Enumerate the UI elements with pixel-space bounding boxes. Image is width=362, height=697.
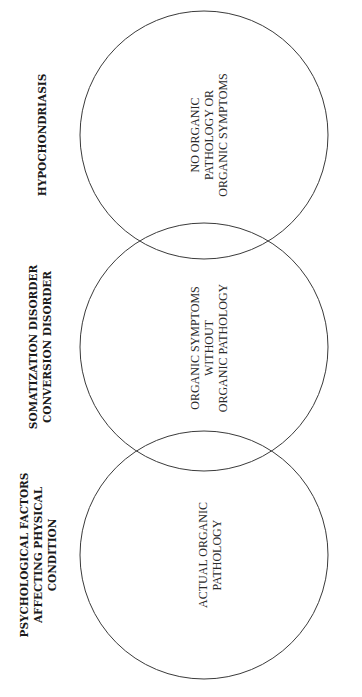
inner-line: ORGANIC SYMPTOMS — [188, 286, 202, 409]
inner-label-organic-symptoms-without-pathology: ORGANIC SYMPTOMS WITHOUT ORGANIC PATHOLO… — [188, 283, 230, 412]
inner-line: ACTUAL ORGANIC — [196, 502, 210, 608]
inner-line: ORGANIC SYMPTOMS — [216, 73, 230, 196]
venn-diagram: PSYCHOLOGICAL FACTORS AFFECTING PHYSICAL… — [0, 0, 362, 697]
category-line: PSYCHOLOGICAL FACTORS — [18, 473, 30, 638]
category-label-hypochondriasis: HYPOCHONDRIASIS — [36, 74, 48, 196]
inner-line: ORGANIC PATHOLOGY — [216, 283, 230, 412]
inner-line: PATHOLOGY — [210, 519, 224, 590]
inner-label-no-organic-pathology: NO ORGANIC PATHOLOGY OR ORGANIC SYMPTOMS — [188, 73, 230, 196]
category-line: HYPOCHONDRIASIS — [36, 74, 48, 196]
category-label-somatization-conversion: SOMATIZATION DISORDER CONVERSION DISORDE… — [27, 265, 53, 430]
category-label-psychological-factors: PSYCHOLOGICAL FACTORS AFFECTING PHYSICAL… — [18, 473, 58, 638]
inner-label-actual-organic-pathology: ACTUAL ORGANIC PATHOLOGY — [196, 502, 224, 608]
category-line: SOMATIZATION DISORDER — [27, 265, 39, 430]
inner-line: WITHOUT — [202, 319, 216, 376]
category-line: CONDITION — [46, 518, 58, 591]
category-line: AFFECTING PHYSICAL — [32, 486, 44, 624]
inner-line: NO ORGANIC — [188, 98, 202, 173]
inner-line: PATHOLOGY OR — [202, 90, 216, 180]
category-line: CONVERSION DISORDER — [41, 271, 53, 423]
